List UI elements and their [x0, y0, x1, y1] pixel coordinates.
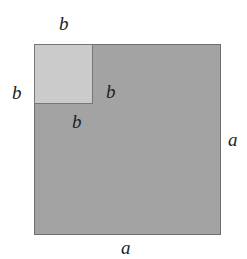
- label-outer-bottom-a: a: [121, 238, 131, 257]
- inner-square-b: [34, 44, 93, 104]
- label-outer-right-a: a: [228, 130, 238, 149]
- label-inner-bottom-b: b: [72, 112, 82, 131]
- label-inner-right-b: b: [106, 82, 116, 101]
- label-inner-left-b: b: [12, 83, 22, 102]
- label-inner-top-b: b: [59, 14, 69, 33]
